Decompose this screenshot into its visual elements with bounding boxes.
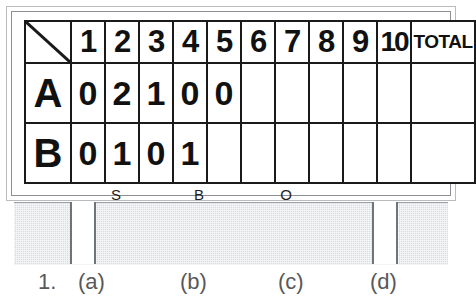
scoreboard-outer-frame: 1 2 3 4 5 6 7 8 9 10 TOTAL	[6, 6, 456, 201]
score-b-inning-2: 1	[105, 123, 139, 183]
score-a-inning-2: 2	[105, 63, 139, 123]
scoreboard-header-row-group: 1 2 3 4 5 6 7 8 9 10 TOTAL	[25, 21, 475, 63]
score-b-total	[411, 123, 475, 183]
inning-header-3: 3	[139, 21, 173, 63]
team-label-a: A	[25, 63, 71, 123]
inning-header-2: 2	[105, 21, 139, 63]
inning-header-9: 9	[343, 21, 377, 63]
score-a-inning-8	[309, 63, 343, 123]
table-row: B 0 1 0 1	[25, 123, 475, 183]
inning-header-4: 4	[173, 21, 207, 63]
inning-header-8: 8	[309, 21, 343, 63]
score-a-inning-9	[343, 63, 377, 123]
score-a-inning-1: 0	[71, 63, 105, 123]
score-b-inning-8	[309, 123, 343, 183]
score-a-inning-4: 0	[173, 63, 207, 123]
inning-header-10: 10	[377, 21, 411, 63]
scoreboard-figure: 1 2 3 4 5 6 7 8 9 10 TOTAL	[0, 0, 462, 265]
score-a-inning-3: 1	[139, 63, 173, 123]
diagonal-slash-icon	[26, 22, 70, 62]
corner-cell	[25, 21, 71, 63]
score-b-inning-5	[207, 123, 241, 183]
caption-choice-c[interactable]: (c)	[278, 268, 304, 296]
count-indicator-strip: S B O	[24, 186, 448, 208]
inning-header-1: 1	[71, 21, 105, 63]
score-b-inning-9	[343, 123, 377, 183]
outs-label: O	[280, 186, 292, 204]
inning-header-7: 7	[275, 21, 309, 63]
score-a-inning-6	[241, 63, 275, 123]
score-b-inning-1: 0	[71, 123, 105, 183]
caption-choice-d[interactable]: (d)	[370, 268, 397, 296]
scoreboard-header-row: 1 2 3 4 5 6 7 8 9 10 TOTAL	[25, 21, 475, 63]
table-row: A 0 2 1 0 0	[25, 63, 475, 123]
score-a-inning-7	[275, 63, 309, 123]
caption-question-number: 1.	[38, 268, 56, 296]
caption-choice-a[interactable]: (a)	[78, 268, 105, 296]
total-header: TOTAL	[411, 21, 475, 63]
score-b-inning-4: 1	[173, 123, 207, 183]
score-a-inning-10	[377, 63, 411, 123]
strikes-label: S	[111, 186, 121, 204]
score-b-inning-6	[241, 123, 275, 183]
caption-choice-b[interactable]: (b)	[180, 268, 207, 296]
sign-support-leg-left	[70, 202, 96, 264]
scoreboard-inner-frame: 1 2 3 4 5 6 7 8 9 10 TOTAL	[11, 11, 451, 196]
score-a-total	[411, 63, 475, 123]
inning-header-6: 6	[241, 21, 275, 63]
scoreboard-table: 1 2 3 4 5 6 7 8 9 10 TOTAL	[24, 20, 476, 184]
scoreboard-body: A 0 2 1 0 0 B 0	[25, 63, 475, 183]
score-b-inning-3: 0	[139, 123, 173, 183]
score-b-inning-7	[275, 123, 309, 183]
balls-label: B	[194, 186, 204, 204]
team-label-b: B	[25, 123, 71, 183]
score-b-inning-10	[377, 123, 411, 183]
sign-support-leg-right	[372, 202, 398, 264]
inning-header-5: 5	[207, 21, 241, 63]
figure-caption: 1. (a) (b) (c) (d)	[0, 266, 462, 298]
score-a-inning-5: 0	[207, 63, 241, 123]
